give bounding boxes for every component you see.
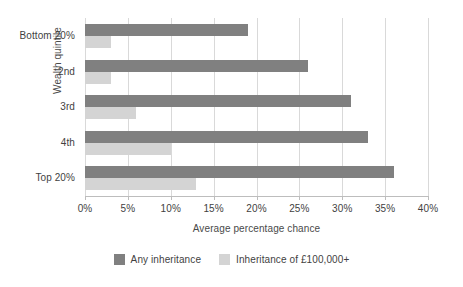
bar-any-inheritance-2: [85, 95, 351, 107]
legend-item[interactable]: Inheritance of £100,000+: [219, 254, 349, 265]
y-axis-tick-label: Top 20%: [35, 172, 75, 183]
gridline-40%: [428, 18, 429, 196]
x-axis-tick-label: 15%: [203, 203, 223, 214]
bar-inheritance-100k-1: [85, 72, 111, 84]
y-axis-tick-label: 2nd: [58, 66, 75, 77]
x-axis-tick-label: 20%: [246, 203, 266, 214]
bar-inheritance-100k-3: [85, 143, 171, 155]
x-axis-tick-label: 30%: [332, 203, 352, 214]
legend-label: Inheritance of £100,000+: [236, 254, 349, 265]
x-axis-tick-mark: [214, 196, 215, 200]
x-axis-tick-label: 5%: [121, 203, 136, 214]
bar-any-inheritance-3: [85, 131, 368, 143]
x-axis-tick-label: 40%: [418, 203, 438, 214]
legend-swatch-icon: [114, 254, 125, 265]
x-axis-tick-label: 25%: [289, 203, 309, 214]
x-axis-tick-mark: [342, 196, 343, 200]
bar-inheritance-100k-2: [85, 107, 136, 119]
x-axis-tick-mark: [85, 196, 86, 200]
plot-area: [85, 18, 428, 196]
legend-item[interactable]: Any inheritance: [114, 254, 201, 265]
x-axis-tick-label: 0%: [78, 203, 93, 214]
legend: Any inheritanceInheritance of £100,000+: [0, 254, 463, 265]
x-axis-tick-mark: [128, 196, 129, 200]
bar-chart: Wealth quintile Bottom 20%2nd3rd4thTop 2…: [0, 0, 463, 287]
legend-label: Any inheritance: [131, 254, 201, 265]
x-axis-tick-mark: [299, 196, 300, 200]
y-axis-tick-label: 4th: [61, 137, 75, 148]
x-axis-tick-mark: [428, 196, 429, 200]
y-axis-tick-labels: Bottom 20%2nd3rd4thTop 20%: [0, 18, 80, 196]
y-axis-tick-label: 3rd: [60, 101, 75, 112]
bar-any-inheritance-1: [85, 60, 308, 72]
x-axis-tick-mark: [257, 196, 258, 200]
x-axis-tick-mark: [171, 196, 172, 200]
x-axis-tick-mark: [385, 196, 386, 200]
x-axis-tick-label: 35%: [375, 203, 395, 214]
x-axis-title: Average percentage chance: [85, 223, 428, 234]
bar-any-inheritance-4: [85, 166, 394, 178]
x-axis-tick-labels: 0%5%10%15%20%25%30%35%40%: [0, 203, 463, 219]
legend-swatch-icon: [219, 254, 230, 265]
y-axis-tick-label: Bottom 20%: [20, 30, 75, 41]
bar-inheritance-100k-4: [85, 178, 196, 190]
bar-inheritance-100k-0: [85, 36, 111, 48]
x-axis-tick-label: 10%: [161, 203, 181, 214]
bar-any-inheritance-0: [85, 24, 248, 36]
